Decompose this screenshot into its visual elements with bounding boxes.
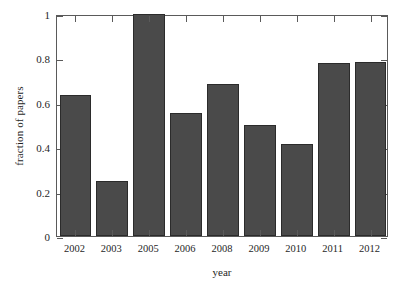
x-axis-title: year — [56, 266, 388, 278]
bar — [96, 181, 128, 237]
x-axis-tick — [223, 230, 224, 236]
x-axis-tick-label: 2003 — [93, 243, 130, 254]
y-axis-tick-label: 0 — [4, 232, 50, 242]
x-axis-tick — [75, 230, 76, 236]
y-axis-tick — [57, 238, 63, 239]
y-axis-tick — [381, 16, 387, 17]
x-axis-tick — [297, 230, 298, 236]
x-axis-tick — [112, 230, 113, 236]
plot-inner — [57, 16, 387, 236]
x-axis-tick — [149, 16, 150, 22]
x-axis-tick — [149, 230, 150, 236]
x-axis-tick-label: 2009 — [240, 243, 277, 254]
y-axis-tick — [381, 238, 387, 239]
x-axis-tick — [334, 16, 335, 22]
x-axis-tick — [186, 230, 187, 236]
bar — [60, 95, 92, 236]
x-axis-tick-label: 2008 — [204, 243, 241, 254]
x-axis-tick-label: 2005 — [130, 243, 167, 254]
bar — [170, 113, 202, 236]
x-axis-tick — [260, 230, 261, 236]
x-axis-tick — [334, 230, 335, 236]
bar-chart-figure: fraction of papers 00.20.40.60.81 200220… — [0, 0, 401, 289]
bar — [281, 144, 313, 236]
x-axis-tick — [75, 16, 76, 22]
x-axis-tick-label: 2012 — [351, 243, 388, 254]
y-axis-tick — [57, 16, 63, 17]
x-axis-tick-label: 2002 — [56, 243, 93, 254]
x-axis-tick — [297, 16, 298, 22]
y-axis-tick-label: 0.2 — [4, 188, 50, 198]
x-axis-tick-label: 2006 — [167, 243, 204, 254]
x-axis-tick — [371, 16, 372, 22]
x-axis-tick — [371, 230, 372, 236]
plot-area — [56, 15, 388, 237]
y-axis-tick-label: 0.6 — [4, 99, 50, 109]
x-axis-tick — [223, 16, 224, 22]
x-axis-tick — [260, 16, 261, 22]
y-axis-tick — [57, 60, 63, 61]
y-axis-tick-label: 1 — [4, 10, 50, 20]
x-axis-tick — [186, 16, 187, 22]
bar — [318, 63, 350, 236]
y-axis-tick-label: 0.4 — [4, 143, 50, 153]
y-axis-title: fraction of papers — [10, 15, 28, 237]
x-axis-tick-label: 2011 — [314, 243, 351, 254]
x-axis-tick-label: 2010 — [277, 243, 314, 254]
y-axis-tick-label: 0.8 — [4, 54, 50, 64]
bar — [133, 14, 165, 236]
bar — [244, 125, 276, 236]
x-axis-tick — [112, 16, 113, 22]
bar — [355, 62, 387, 236]
bar — [207, 84, 239, 236]
